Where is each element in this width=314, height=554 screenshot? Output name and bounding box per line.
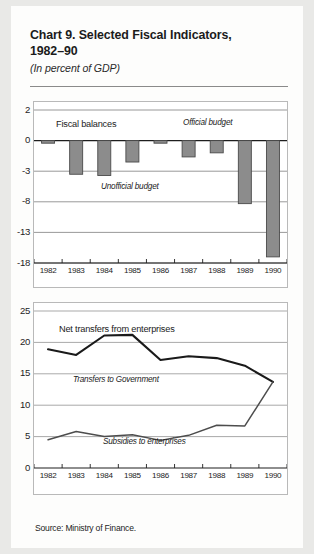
bar-x-tick-1985: 1985 bbox=[118, 266, 146, 275]
line-y-tick-5: 5 bbox=[11, 430, 30, 441]
header-divider bbox=[30, 86, 288, 87]
bar-1989 bbox=[238, 141, 251, 204]
chart-title-line1: Chart 9. Selected Fiscal Indicators, bbox=[30, 28, 232, 42]
line-x-tick-1988: 1988 bbox=[203, 471, 231, 480]
bar-x-tick-1982: 1982 bbox=[34, 266, 62, 275]
bar-x-tick-1984: 1984 bbox=[90, 266, 118, 275]
bar-x-tick-1983: 1983 bbox=[62, 266, 90, 275]
bar-x-tick-1989: 1989 bbox=[231, 266, 259, 275]
line-x-tick-1985: 1985 bbox=[118, 471, 146, 480]
bar-1985 bbox=[126, 141, 139, 162]
bar-y-tick-neg13: -13 bbox=[11, 226, 30, 237]
bar-chart-svg bbox=[34, 102, 287, 287]
bar-y-tick-neg8: -8 bbox=[11, 195, 30, 206]
bar-1987 bbox=[182, 141, 195, 157]
bar-x-tick-1990: 1990 bbox=[259, 266, 287, 275]
line-x-tick-1987: 1987 bbox=[175, 471, 203, 480]
bar-1983 bbox=[70, 141, 83, 175]
source-note: Source: Ministry of Finance. bbox=[35, 523, 136, 533]
chart-card: Chart 9. Selected Fiscal Indicators, 198… bbox=[11, 6, 303, 548]
line-x-tick-1983: 1983 bbox=[62, 471, 90, 480]
bar-1986 bbox=[154, 141, 167, 144]
bar-x-tick-1987: 1987 bbox=[175, 266, 203, 275]
bar-1990 bbox=[266, 141, 279, 257]
annotation-subsidies-to-enterprises: Subsidies to enterprises bbox=[103, 437, 186, 446]
annotation-transfers-to-government: Transfers to Government bbox=[73, 375, 159, 384]
line-y-tick-25: 25 bbox=[11, 305, 30, 316]
line-series bbox=[48, 382, 273, 440]
bar-y-tick-neg3: -3 bbox=[11, 165, 30, 176]
annotation-fiscal-balances: Fiscal balances bbox=[56, 119, 116, 129]
line-x-tick-1989: 1989 bbox=[231, 471, 259, 480]
line-y-tick-15: 15 bbox=[11, 367, 30, 378]
bar-x-tick-1986: 1986 bbox=[146, 266, 174, 275]
annotation-net-transfers: Net transfers from enterprises bbox=[59, 324, 175, 334]
bar-y-tick-0: 0 bbox=[11, 134, 30, 145]
bar-x-tick-1988: 1988 bbox=[203, 266, 231, 275]
chart-subtitle: (In percent of GDP) bbox=[30, 62, 288, 74]
bar-1982 bbox=[42, 141, 55, 144]
chart-page: Chart 9. Selected Fiscal Indicators, 198… bbox=[0, 0, 314, 554]
line-y-tick-0: 0 bbox=[11, 462, 30, 473]
line-x-tick-1986: 1986 bbox=[146, 471, 174, 480]
line-x-tick-1990: 1990 bbox=[259, 471, 287, 480]
line-y-tick-20: 20 bbox=[11, 336, 30, 347]
page-title: Chart 9. Selected Fiscal Indicators, 198… bbox=[30, 28, 288, 59]
bar-chart-plot-area bbox=[33, 101, 288, 288]
annotation-official-budget: Official budget bbox=[183, 118, 232, 127]
bar-y-tick-neg18: -18 bbox=[11, 257, 30, 268]
annotation-unofficial-budget: Unofficial budget bbox=[101, 182, 159, 191]
bar-y-tick-2: 2 bbox=[11, 104, 30, 115]
bar-1988 bbox=[210, 141, 223, 153]
chart-header: Chart 9. Selected Fiscal Indicators, 198… bbox=[30, 28, 288, 74]
line-y-tick-10: 10 bbox=[11, 399, 30, 410]
bar-1984 bbox=[98, 141, 111, 176]
chart-title-line2: 1982–90 bbox=[30, 44, 78, 58]
line-x-tick-1984: 1984 bbox=[90, 471, 118, 480]
line-x-tick-1982: 1982 bbox=[34, 471, 62, 480]
